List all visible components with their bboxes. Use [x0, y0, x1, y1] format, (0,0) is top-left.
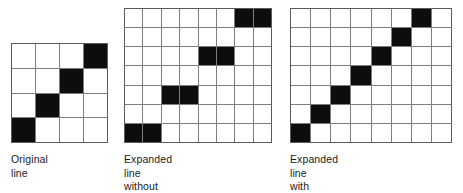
grid-cell-empty [235, 28, 252, 46]
grid-cell-empty [162, 28, 179, 46]
grid-cell-empty [235, 124, 252, 142]
grid-cell-filled [84, 44, 107, 68]
pixel-grid-expanded-without-interpolative-scaling [124, 8, 272, 143]
grid-cell-filled [291, 124, 310, 142]
grid-cell-empty [392, 86, 411, 104]
grid-cell-empty [412, 66, 431, 84]
grid-cell-empty [254, 47, 271, 65]
grid-cell-empty [180, 66, 197, 84]
grid-cell-empty [331, 47, 350, 65]
grid-cell-empty [60, 94, 83, 118]
grid-cell-filled [36, 94, 59, 118]
grid-cell-filled [351, 66, 370, 84]
grid-cell-empty [254, 66, 271, 84]
grid-cell-empty [162, 66, 179, 84]
caption-original-line: Original line [11, 153, 48, 180]
grid-cell-empty [125, 66, 142, 84]
grid-cell-empty [125, 9, 142, 27]
grid-cell-empty [143, 105, 160, 123]
grid-cell-empty [12, 94, 35, 118]
grid-cell-empty [125, 28, 142, 46]
grid-cell-empty [143, 28, 160, 46]
grid-cell-empty [412, 28, 431, 46]
grid-cell-empty [392, 9, 411, 27]
grid-cell-empty [291, 66, 310, 84]
grid-cell-empty [331, 124, 350, 142]
grid-cell-empty [351, 47, 370, 65]
grid-cell-empty [36, 69, 59, 93]
grid-cell-empty [199, 124, 216, 142]
grid-cell-empty [331, 9, 350, 27]
grid-cell-filled [217, 47, 234, 65]
caption-expanded-with-interpolative-scaling: Expanded line with interpolative scaling [290, 153, 348, 193]
grid-cell-empty [412, 47, 431, 65]
grid-cell-empty [217, 66, 234, 84]
grid-cell-empty [84, 118, 107, 142]
grid-cell-empty [254, 124, 271, 142]
grid-cell-empty [372, 124, 391, 142]
grid-cell-empty [311, 86, 330, 104]
grid-cell-filled [180, 86, 197, 104]
grid-cell-empty [372, 86, 391, 104]
grid-cell-empty [351, 9, 370, 27]
grid-cell-empty [162, 105, 179, 123]
grid-cell-empty [60, 44, 83, 68]
grid-cell-empty [291, 86, 310, 104]
grid-cell-empty [180, 47, 197, 65]
grid-cell-empty [143, 9, 160, 27]
grid-cell-empty [412, 124, 431, 142]
grid-cell-empty [372, 105, 391, 123]
grid-cell-empty [217, 9, 234, 27]
grid-cell-filled [143, 124, 160, 142]
grid-cell-empty [60, 118, 83, 142]
grid-cell-empty [162, 47, 179, 65]
grid-cell-empty [351, 124, 370, 142]
grid-cell-empty [392, 47, 411, 65]
grid-cell-empty [351, 105, 370, 123]
grid-cell-empty [432, 28, 451, 46]
grid-cell-empty [180, 105, 197, 123]
grid-cell-empty [311, 28, 330, 46]
grid-cell-filled [162, 86, 179, 104]
grid-cell-empty [235, 47, 252, 65]
grid-cell-filled [254, 9, 271, 27]
grid-cell-filled [12, 118, 35, 142]
grid-cell-empty [432, 47, 451, 65]
grid-cell-empty [392, 124, 411, 142]
grid-cell-empty [412, 86, 431, 104]
grid-cell-filled [235, 9, 252, 27]
grid-cell-empty [432, 124, 451, 142]
grid-cell-empty [180, 28, 197, 46]
grid-cell-empty [311, 124, 330, 142]
grid-cell-empty [199, 86, 216, 104]
grid-cell-empty [235, 105, 252, 123]
grid-cell-empty [180, 124, 197, 142]
grid-cell-empty [331, 28, 350, 46]
grid-cell-empty [291, 9, 310, 27]
grid-cell-empty [372, 9, 391, 27]
grid-cell-empty [432, 66, 451, 84]
grid-cell-empty [143, 86, 160, 104]
grid-cell-filled [199, 47, 216, 65]
grid-cell-empty [311, 47, 330, 65]
grid-cell-empty [162, 124, 179, 142]
grid-cell-filled [331, 86, 350, 104]
grid-cell-empty [235, 86, 252, 104]
grid-cell-empty [199, 9, 216, 27]
grid-cell-empty [217, 28, 234, 46]
grid-cell-empty [351, 28, 370, 46]
grid-cell-empty [254, 28, 271, 46]
pixel-grid-expanded-with-interpolative-scaling [290, 8, 452, 143]
grid-cell-empty [392, 66, 411, 84]
figure-interpolative-scaling: Original line Expanded line without inte… [0, 0, 463, 193]
grid-cell-empty [235, 66, 252, 84]
grid-cell-empty [125, 105, 142, 123]
grid-cell-empty [12, 44, 35, 68]
grid-cell-empty [331, 66, 350, 84]
grid-cell-empty [291, 105, 310, 123]
grid-cell-empty [125, 47, 142, 65]
grid-cell-empty [351, 86, 370, 104]
grid-cell-empty [432, 9, 451, 27]
grid-cell-empty [331, 105, 350, 123]
grid-cell-empty [254, 105, 271, 123]
